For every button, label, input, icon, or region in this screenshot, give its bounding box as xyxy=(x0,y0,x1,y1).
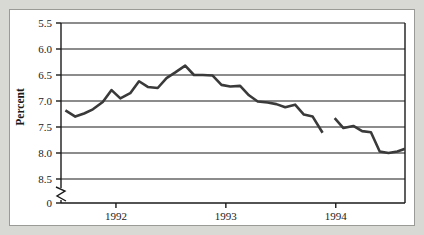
data-line-segment-1 xyxy=(65,66,322,133)
x-tick-label-1994: 1994 xyxy=(325,210,348,222)
chart-svg: 8.58.07.57.06.56.05.50Percent19921993199… xyxy=(10,10,414,225)
chart-figure: 8.58.07.57.06.56.05.50Percent19921993199… xyxy=(0,0,424,235)
y-tick-label-7: 7.0 xyxy=(38,95,52,107)
chart-panel: 8.58.07.57.06.56.05.50Percent19921993199… xyxy=(9,9,415,226)
y-axis-title: Percent xyxy=(14,88,26,126)
x-axis-ticks: 199219931994 xyxy=(105,203,347,222)
y-tick-label-8: 6.0 xyxy=(38,43,52,55)
y-tick-label-6.5: 7.5 xyxy=(38,121,52,133)
axis-lines xyxy=(56,23,405,203)
data-series-group xyxy=(65,66,405,153)
data-line-segment-2 xyxy=(335,118,405,153)
y-axis-break-icon xyxy=(56,187,66,201)
x-tick-label-1992: 1992 xyxy=(105,210,127,222)
y-tick-label-7.5: 6.5 xyxy=(38,69,52,81)
y-tick-label-8.5: 5.5 xyxy=(38,17,52,29)
grid-lines xyxy=(61,23,405,179)
y-tick-label-0: 0 xyxy=(47,197,53,209)
y-tick-label-6: 8.0 xyxy=(38,147,52,159)
y-axis-ticks: 8.58.07.57.06.56.05.50 xyxy=(38,17,61,209)
x-tick-label-1993: 1993 xyxy=(215,210,238,222)
y-tick-label-5.5: 8.5 xyxy=(38,173,52,185)
